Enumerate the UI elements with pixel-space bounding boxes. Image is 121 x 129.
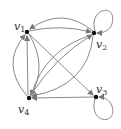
node-v1 xyxy=(25,30,29,34)
edge-v1-v2 xyxy=(29,28,91,32)
label-v4: v4 xyxy=(18,103,29,117)
edge-v4-v1-arc xyxy=(13,35,27,96)
edge-v2-v2 xyxy=(94,10,113,33)
edge-v4-v1 xyxy=(27,36,28,95)
label-v3: v3 xyxy=(96,83,107,97)
label-v1: v1 xyxy=(14,20,25,34)
node-v2 xyxy=(92,31,96,35)
directed-graph: v1 v2 v3 v4 xyxy=(0,0,121,129)
label-v2: v2 xyxy=(96,38,107,52)
edge-v3-v3 xyxy=(94,97,113,120)
node-v4 xyxy=(27,96,31,100)
edge-v3-v4 xyxy=(32,97,94,98)
